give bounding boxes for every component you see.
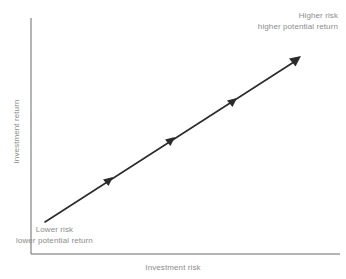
annotation-higher-risk-line1: Higher risk xyxy=(258,10,338,21)
y-axis-label: Investment return xyxy=(11,72,22,192)
annotation-lower-risk-line2: lower potential return xyxy=(16,235,93,246)
annotation-higher-risk: Higher risk higher potential return xyxy=(258,10,338,32)
annotation-lower-risk: Lower risk lower potential return xyxy=(16,224,93,246)
trend-marker-icon-3 xyxy=(227,98,237,107)
x-axis-label: Investment risk xyxy=(0,262,346,273)
risk-return-chart: Higher risk higher potential return Lowe… xyxy=(0,0,346,279)
annotation-higher-risk-line2: higher potential return xyxy=(258,21,338,32)
annotation-lower-risk-line1: Lower risk xyxy=(16,224,93,235)
